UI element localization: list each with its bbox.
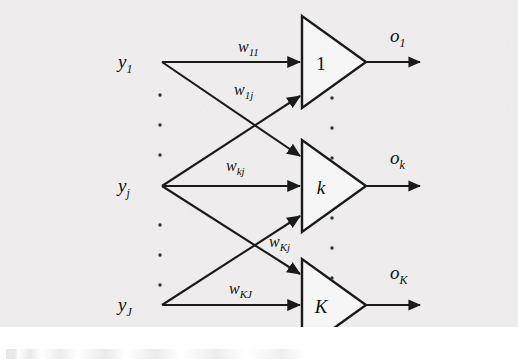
- neuron-label-K: K: [314, 296, 329, 317]
- input-label-yj: yj: [116, 175, 130, 200]
- weight-base-wKj: w: [269, 233, 280, 250]
- output-base-ok: o: [390, 147, 400, 168]
- neuron-triangle-1[interactable]: [302, 16, 366, 108]
- ellipsis-dot: [158, 153, 161, 156]
- weight-sub-wKj: Kj: [279, 241, 290, 253]
- output-base-o1: o: [390, 25, 400, 46]
- ellipsis-left: [158, 93, 161, 286]
- input-label-y1: y1: [116, 51, 132, 76]
- weight-base-wKJ: w: [229, 280, 240, 297]
- neuron-label-k: k: [317, 177, 326, 198]
- neuron-triangle-K[interactable]: [302, 259, 366, 327]
- ellipsis-dot: [158, 123, 161, 126]
- diagram-canvas: 1 k K y1 yj yJ w11 w1j wkj: [0, 0, 518, 327]
- weight-base-w1j: w: [234, 81, 245, 98]
- input-base-yj: y: [116, 175, 127, 196]
- weight-label-wKj: wKj: [269, 233, 290, 253]
- weight-base-w11: w: [238, 38, 249, 55]
- input-base-y1: y: [116, 51, 127, 72]
- caption-strip: [0, 327, 518, 363]
- ellipsis-dot: [158, 253, 161, 256]
- ellipsis-dot: [330, 276, 333, 279]
- ellipsis-dot: [330, 156, 333, 159]
- ellipsis-dot: [158, 223, 161, 226]
- output-sub-o1: 1: [400, 36, 406, 50]
- weight-sub-w1j: 1j: [245, 89, 254, 101]
- ellipsis-dot: [158, 283, 161, 286]
- output-label-o1: o1: [390, 25, 406, 50]
- weight-base-wkj: w: [226, 157, 237, 174]
- weight-label-wKJ: wKJ: [229, 280, 253, 300]
- input-sub-yJ: J: [126, 305, 132, 319]
- weight-sub-wkj: kj: [237, 165, 245, 177]
- ellipsis-dot: [330, 96, 333, 99]
- weight-label-w11: w11: [238, 38, 259, 58]
- ellipsis-dot: [158, 93, 161, 96]
- output-label-oK: oK: [390, 262, 409, 287]
- input-base-yJ: y: [116, 294, 127, 315]
- output-sub-ok: k: [400, 158, 406, 172]
- weight-label-wkj: wkj: [226, 157, 245, 177]
- figure-page: 1 k K y1 yj yJ w11 w1j wkj: [0, 0, 518, 363]
- input-label-yJ: yJ: [116, 294, 132, 319]
- ellipsis-dot: [330, 216, 333, 219]
- weight-sub-w11: 11: [249, 46, 259, 58]
- neuron-triangle-k[interactable]: [302, 140, 366, 232]
- weight-sub-wKJ: KJ: [239, 288, 253, 300]
- ellipsis-dot: [330, 246, 333, 249]
- input-sub-y1: 1: [126, 62, 132, 76]
- output-label-ok: ok: [390, 147, 406, 172]
- output-sub-oK: K: [399, 273, 409, 287]
- caption-text-remnant: [6, 349, 306, 359]
- neuron-label-1: 1: [316, 53, 326, 74]
- network-diagram-svg: 1 k K y1 yj yJ w11 w1j wkj: [0, 0, 518, 327]
- ellipsis-dot: [330, 126, 333, 129]
- weight-label-w1j: w1j: [234, 81, 253, 101]
- output-base-oK: o: [390, 262, 400, 283]
